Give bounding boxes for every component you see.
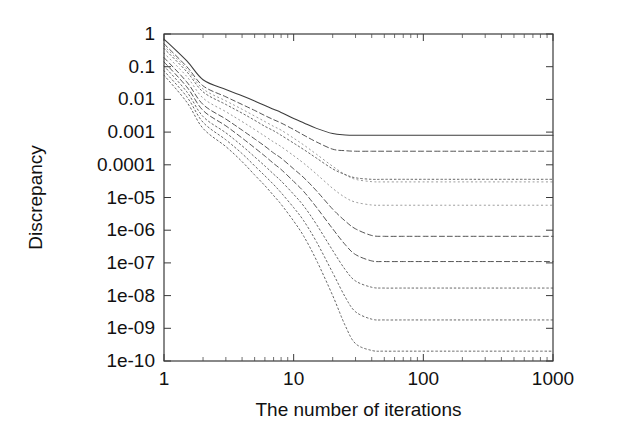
x-tick-label: 10 (283, 368, 304, 389)
y-tick-label: 1e-06 (106, 219, 155, 240)
x-tick-label: 1000 (532, 368, 574, 389)
y-axis-label: Discrepancy (25, 145, 46, 250)
y-tick-label: 0.001 (107, 121, 155, 142)
y-tick-label: 1e-05 (106, 187, 155, 208)
x-axis-label: The number of iterations (256, 399, 462, 420)
figure-container: 10.10.010.0010.00011e-051e-061e-071e-081… (0, 0, 617, 447)
y-tick-label: 1 (144, 23, 155, 44)
y-tick-label: 1e-09 (106, 317, 155, 338)
y-tick-label: 0.1 (129, 56, 155, 77)
y-tick-label: 1e-08 (106, 285, 155, 306)
y-tick-label: 0.0001 (97, 154, 155, 175)
discrepancy-convergence-chart: 10.10.010.0010.00011e-051e-061e-071e-081… (0, 0, 617, 447)
x-tick-label: 1 (159, 368, 170, 389)
y-tick-label: 1e-07 (106, 252, 155, 273)
chart-background (0, 0, 617, 447)
x-tick-label: 100 (407, 368, 439, 389)
y-tick-label: 0.01 (118, 88, 155, 109)
y-tick-label: 1e-10 (106, 350, 155, 371)
